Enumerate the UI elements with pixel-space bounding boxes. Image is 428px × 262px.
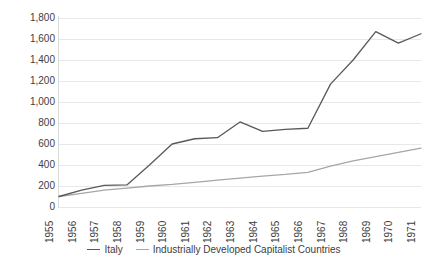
series-line [59, 148, 421, 196]
y-axis-tick-label: 1,800 [7, 13, 55, 23]
legend-label: Italy [104, 244, 122, 255]
x-axis-tick-label: 1969 [362, 221, 372, 243]
x-axis-tick-label: 1955 [45, 221, 55, 243]
y-axis-tick-label: 400 [7, 160, 55, 170]
legend-item[interactable]: Italy [87, 244, 122, 255]
y-axis-tick-label: 800 [7, 118, 55, 128]
series-lines [59, 18, 421, 207]
y-axis-tick-label: 1,000 [7, 97, 55, 107]
legend-item[interactable]: Industrially Developed Capitalist Countr… [136, 244, 341, 255]
x-axis-tick-label: 1962 [203, 221, 213, 243]
chart-legend: ItalyIndustrially Developed Capitalist C… [0, 244, 428, 255]
x-axis: 1955195619571958195919601961196219631964… [59, 209, 421, 243]
x-axis-tick-label: 1956 [68, 221, 78, 243]
x-axis-tick-label: 1961 [181, 221, 191, 243]
x-axis-tick-label: 1960 [158, 221, 168, 243]
x-axis-tick-label: 1963 [226, 221, 236, 243]
x-axis-tick-label: 1959 [136, 221, 146, 243]
y-axis-tick-label: 1,600 [7, 34, 55, 44]
x-axis-tick-label: 1967 [317, 221, 327, 243]
line-chart: 02004006008001,0001,2001,4001,6001,800 1… [0, 0, 428, 262]
x-axis-tick-label: 1968 [339, 221, 349, 243]
plot-area [59, 18, 421, 207]
legend-label: Industrially Developed Capitalist Countr… [153, 244, 341, 255]
series-line [59, 32, 421, 197]
x-axis-tick-label: 1964 [249, 221, 259, 243]
gridline [59, 207, 421, 208]
y-axis-tick-label: 600 [7, 139, 55, 149]
y-axis-tick-label: 1,200 [7, 76, 55, 86]
x-axis-tick-label: 1957 [90, 221, 100, 243]
x-axis-tick-label: 1971 [407, 221, 417, 243]
x-axis-tick-label: 1966 [294, 221, 304, 243]
x-axis-tick-label: 1958 [113, 221, 123, 243]
x-axis-tick-label: 1970 [384, 221, 394, 243]
legend-line-swatch [87, 249, 100, 250]
y-axis-tick-label: 0 [7, 202, 55, 212]
y-axis-tick-label: 1,400 [7, 55, 55, 65]
x-axis-tick-label: 1965 [271, 221, 281, 243]
legend-line-swatch [136, 249, 149, 250]
y-axis-tick-label: 200 [7, 181, 55, 191]
